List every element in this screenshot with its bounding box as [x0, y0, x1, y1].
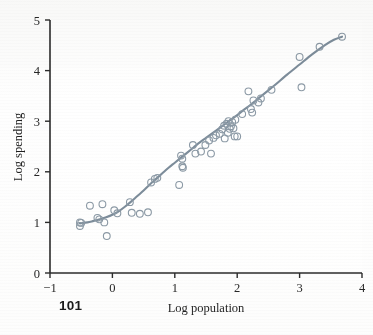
x-tick-label: 1	[172, 281, 178, 295]
x-axis-ticks: −101234	[43, 273, 366, 295]
x-tick-label: −1	[43, 281, 56, 295]
x-axis-title: Log population	[168, 301, 245, 315]
plot-area-background	[50, 20, 362, 273]
y-tick-label: 3	[34, 115, 40, 129]
x-tick-label: 0	[109, 281, 115, 295]
y-tick-label: 5	[34, 14, 40, 28]
y-axis-ticks: 012345	[34, 14, 50, 281]
x-tick-label: 4	[359, 281, 366, 295]
y-tick-label: 1	[34, 216, 40, 230]
y-tick-label: 2	[34, 165, 40, 179]
y-axis-title: Log spending	[11, 112, 25, 181]
page-number: 101	[59, 298, 82, 313]
figure-page: −101234 012345 Log population Log spendi…	[0, 0, 373, 335]
scatter-plot-figure: −101234 012345 Log population Log spendi…	[0, 0, 373, 335]
x-tick-label: 2	[234, 281, 240, 295]
y-tick-label: 4	[34, 64, 41, 78]
x-tick-label: 3	[296, 281, 302, 295]
y-tick-label: 0	[34, 267, 40, 281]
